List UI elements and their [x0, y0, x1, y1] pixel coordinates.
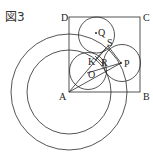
label-k: K [88, 57, 95, 67]
line-s-p [108, 46, 121, 63]
label-o: O [88, 70, 95, 80]
label-c: C [143, 13, 150, 23]
label-b: B [143, 92, 150, 102]
label-q: Q [98, 28, 105, 38]
label-a: A [59, 92, 66, 102]
point-q-dot [95, 32, 97, 34]
geometry-diagram [0, 0, 153, 156]
label-r: R [101, 58, 108, 68]
point-p-dot [120, 62, 122, 64]
label-d: D [61, 13, 68, 23]
label-p: P [124, 59, 130, 69]
label-s: S [107, 38, 113, 48]
